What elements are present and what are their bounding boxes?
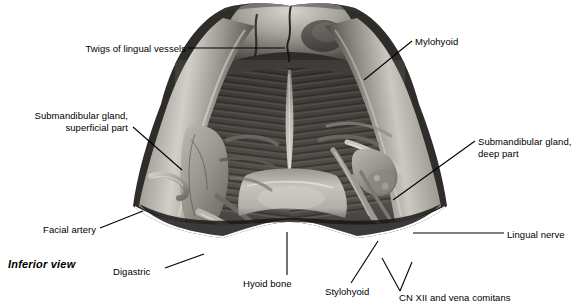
label-digastric: Digastric [113,266,163,278]
label-submandibular-gland-deep-part: Submandibular gland, deep part [478,136,580,159]
anatomy-figure: Twigs of lingual vessels Submandibular g… [0,0,580,305]
view-caption: Inferior view [8,258,75,270]
label-stylohyoid: Stylohyoid [325,286,385,298]
label-mylohyoid: Mylohyoid [415,36,473,48]
label-lingual-nerve: Lingual nerve [507,229,579,241]
label-cn-xii-and-vena-comitans: CN XII and vena comitans [399,292,539,304]
label-facial-artery: Facial artery [32,224,96,236]
label-submandibular-gland-superficial-part: Submandibular gland, superficial part [10,110,128,133]
label-hyoid-bone: Hyoid bone [243,278,331,290]
label-twigs-of-lingual-vessels: Twigs of lingual vessels [60,43,186,55]
